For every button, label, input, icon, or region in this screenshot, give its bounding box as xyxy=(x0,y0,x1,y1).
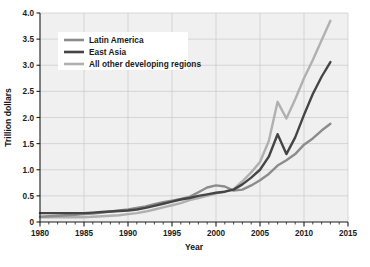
x-tick-label: 2010 xyxy=(295,229,314,238)
y-tick-label: 0.5 xyxy=(23,192,35,201)
y-tick-label: 2.0 xyxy=(23,114,35,123)
chart-legend: Latin AmericaEast AsiaAll other developi… xyxy=(58,32,201,70)
line-chart: 00.51.01.52.02.53.03.54.0198019851990199… xyxy=(0,0,370,267)
x-tick-label: 1995 xyxy=(163,229,182,238)
legend-label: All other developing regions xyxy=(89,59,201,69)
x-tick-label: 2015 xyxy=(339,229,358,238)
y-tick-label: 1.0 xyxy=(23,166,35,175)
y-tick-label: 1.5 xyxy=(23,140,35,149)
legend-label: Latin America xyxy=(89,35,144,45)
y-tick-label: 2.5 xyxy=(23,87,35,96)
chart-figure: 00.51.01.52.02.53.03.54.0198019851990199… xyxy=(0,0,370,267)
x-tick-label: 1990 xyxy=(119,229,138,238)
x-tick-label: 1985 xyxy=(75,229,94,238)
y-tick-label: 4.0 xyxy=(23,9,35,18)
y-tick-label: 3.0 xyxy=(23,61,35,70)
x-tick-label: 2005 xyxy=(251,229,270,238)
y-axis-title: Trillion dollars xyxy=(3,88,13,147)
legend-label: East Asia xyxy=(89,47,126,57)
y-tick-label: 3.5 xyxy=(23,35,35,44)
x-tick-label: 1980 xyxy=(31,229,50,238)
x-tick-label: 2000 xyxy=(207,229,226,238)
y-tick-label: 0 xyxy=(29,218,34,227)
x-axis-title: Year xyxy=(185,242,204,252)
